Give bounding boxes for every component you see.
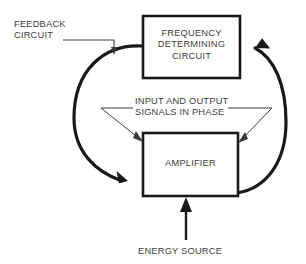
- amplifier-label: AMPLIFIER: [143, 158, 238, 169]
- oscillator-block-diagram: FEEDBACK CIRCUIT FREQUENCY DETERMINING C…: [0, 0, 306, 264]
- feedback-circuit-leader-line: [63, 40, 114, 50]
- energy-source-arrowhead: [180, 197, 192, 212]
- output-path-right: [237, 37, 286, 193]
- energy-source-label: ENERGY SOURCE: [138, 246, 222, 257]
- phase-note-leader-left-arrowhead: [133, 131, 143, 142]
- phase-note-label: INPUT AND OUTPUT SIGNALS IN PHASE: [135, 96, 228, 119]
- energy-source-arrow: [180, 197, 192, 240]
- feedback-path-left: [74, 46, 142, 186]
- frequency-determining-circuit-label: FREQUENCY DETERMINING CIRCUIT: [143, 28, 240, 62]
- output-path-right-curve: [237, 48, 286, 193]
- feedback-circuit-label: FEEDBACK CIRCUIT: [14, 19, 66, 42]
